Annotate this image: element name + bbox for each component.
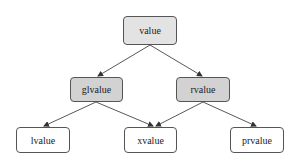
edge-glvalue-xvalue — [96, 102, 153, 126]
node-rvalue: rvalue — [176, 77, 230, 102]
edge-rvalue-xvalue — [156, 102, 203, 126]
node-prvalue: prvalue — [230, 127, 284, 153]
edge-glvalue-lvalue — [44, 102, 96, 126]
node-label: glvalue — [82, 84, 111, 95]
edge-rvalue-prvalue — [203, 102, 256, 126]
node-label: rvalue — [191, 84, 216, 95]
node-xvalue: xvalue — [124, 127, 177, 153]
node-lvalue: lvalue — [16, 127, 70, 153]
value-category-diagram: value glvalue rvalue lvalue xvalue prval… — [0, 0, 300, 168]
node-label: xvalue — [137, 135, 164, 146]
node-value: value — [123, 16, 177, 45]
node-glvalue: glvalue — [70, 77, 123, 102]
edge-value-rvalue — [150, 45, 202, 76]
node-label: lvalue — [31, 135, 55, 146]
edge-value-glvalue — [98, 45, 150, 76]
node-label: value — [139, 25, 161, 36]
node-label: prvalue — [242, 135, 272, 146]
